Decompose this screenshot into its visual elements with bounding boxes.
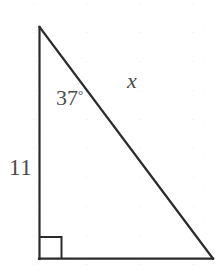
right-angle-marker-icon	[40, 237, 62, 259]
triangle-hypotenuse	[40, 27, 214, 259]
triangle-figure: 11 37° x	[0, 0, 221, 270]
degree-symbol-icon: °	[78, 87, 83, 102]
label-hypotenuse-variable: x	[127, 70, 137, 92]
label-angle-measure: 37°	[56, 87, 83, 109]
label-leg-length: 11	[9, 156, 32, 179]
triangle-svg	[0, 0, 221, 270]
angle-value: 37	[56, 85, 78, 110]
